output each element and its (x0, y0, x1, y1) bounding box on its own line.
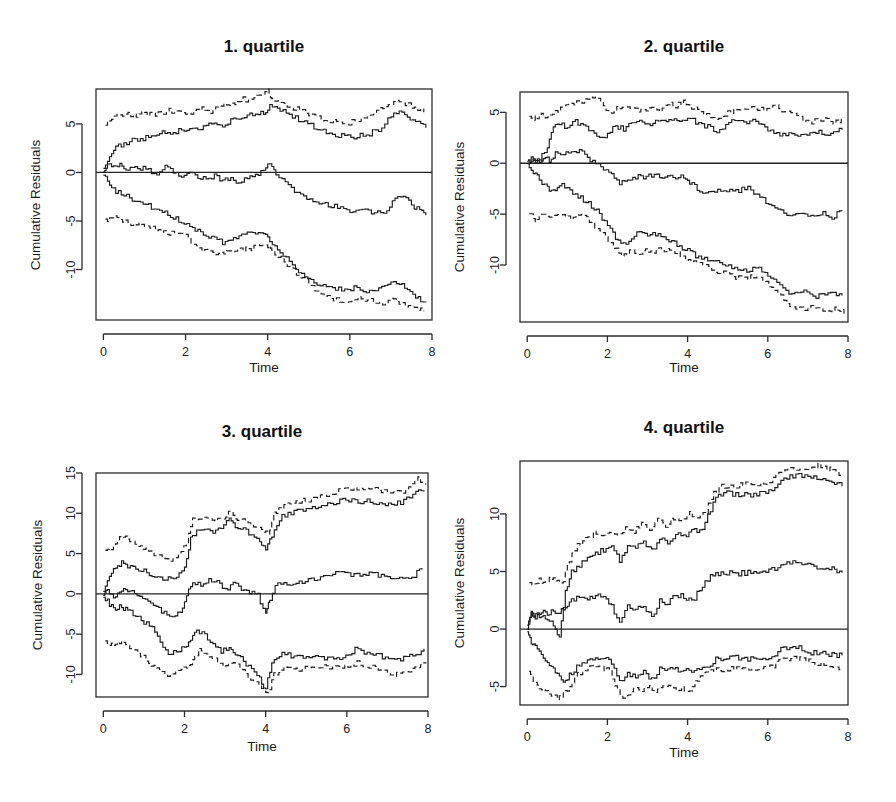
x-tick-label: 4 (684, 730, 691, 744)
y-axis-label: Cumulative Residuals (452, 517, 467, 648)
series-line (527, 118, 842, 163)
x-tick-label: 0 (524, 730, 531, 744)
y-axis-label: Cumulative Residuals (30, 519, 45, 650)
x-tick-label: 8 (845, 730, 852, 744)
y-tick-label: 10 (488, 507, 502, 521)
x-tick-label: 0 (100, 722, 107, 736)
series-line (103, 104, 425, 168)
series-line (527, 632, 842, 682)
y-tick-label: 0 (64, 590, 78, 597)
panel-title: 3. quartile (222, 422, 302, 441)
x-axis-label: Time (669, 360, 699, 375)
series-line (105, 641, 426, 693)
x-tick-label: 6 (764, 347, 771, 361)
series-line (105, 216, 423, 311)
x-tick-label: 4 (262, 722, 269, 736)
y-tick-label: 5 (64, 120, 78, 127)
y-tick-label: -10 (64, 665, 78, 683)
y-axis-label: Cumulative Residuals (452, 141, 467, 272)
chart-panel-2: 2. quartile0246850-5-10TimeCumulative Re… (448, 0, 896, 401)
x-tick-label: 2 (181, 722, 188, 736)
series-line (527, 473, 842, 636)
series-line (527, 164, 842, 299)
y-tick-label: 5 (488, 568, 502, 575)
y-tick-label: -5 (64, 629, 78, 640)
y-tick-label: 0 (488, 160, 502, 167)
chart-panel-4: 4. quartile024681050-5TimeCumulative Res… (448, 401, 896, 802)
series-line (527, 150, 842, 220)
panel-title: 1. quartile (224, 37, 304, 56)
x-tick-label: 8 (429, 345, 436, 359)
x-tick-label: 8 (845, 347, 852, 361)
series-line (103, 490, 424, 592)
y-tick-label: -5 (488, 681, 502, 692)
panel-title: 4. quartile (644, 418, 724, 437)
series-line (105, 89, 423, 125)
y-tick-label: -10 (64, 260, 78, 278)
y-tick-label: 5 (488, 109, 502, 116)
x-tick-label: 2 (604, 730, 611, 744)
y-tick-label: 0 (64, 169, 78, 176)
panel-title: 2. quartile (644, 37, 724, 56)
x-axis-label: Time (669, 745, 699, 760)
x-axis-label: Time (249, 360, 279, 375)
figure-grid: 1. quartile0246850-5-10TimeCumulative Re… (0, 0, 896, 802)
y-tick-label: 0 (488, 626, 502, 633)
series-line (103, 175, 425, 302)
y-tick-label: -5 (488, 209, 502, 220)
y-tick-label: 5 (64, 550, 78, 557)
x-tick-label: 6 (346, 345, 353, 359)
x-tick-label: 2 (604, 347, 611, 361)
y-tick-label: 10 (64, 506, 78, 520)
y-tick-label: -5 (64, 215, 78, 226)
y-tick-label: 15 (64, 466, 78, 480)
x-tick-label: 8 (425, 722, 432, 736)
series-line (529, 656, 842, 699)
chart-panel-1: 1. quartile0246850-5-10TimeCumulative Re… (0, 0, 448, 401)
x-axis-label: Time (247, 739, 277, 754)
x-tick-label: 2 (182, 345, 189, 359)
x-tick-label: 6 (343, 722, 350, 736)
series-line (529, 214, 844, 314)
x-tick-label: 0 (524, 347, 531, 361)
x-tick-label: 4 (264, 345, 271, 359)
y-axis-label: Cumulative Residuals (28, 139, 43, 270)
series-line (103, 597, 424, 688)
chart-panel-3: 3. quartile02468151050-5-10TimeCumulativ… (0, 401, 448, 802)
x-tick-label: 6 (764, 730, 771, 744)
x-tick-label: 0 (100, 345, 107, 359)
y-tick-label: -10 (488, 256, 502, 274)
plot-frame (96, 473, 428, 697)
x-tick-label: 4 (684, 347, 691, 361)
plot-frame (520, 92, 848, 322)
